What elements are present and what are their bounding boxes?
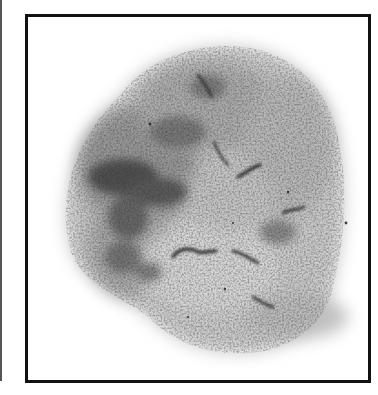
image-frame xyxy=(25,14,371,383)
left-edge-line xyxy=(0,0,2,381)
specimen-image xyxy=(28,17,368,380)
